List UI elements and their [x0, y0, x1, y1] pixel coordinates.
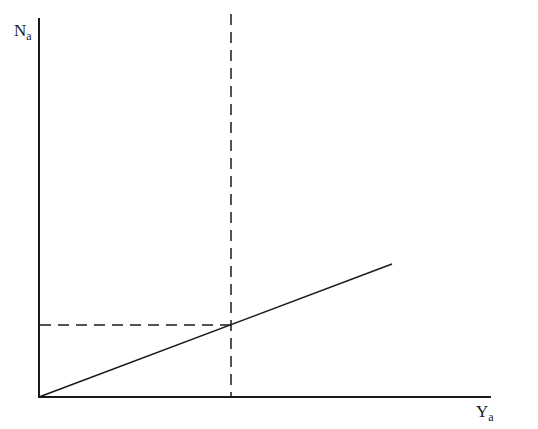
x-axis-label: Ya: [476, 403, 494, 423]
y-axis-label-main: N: [14, 21, 26, 40]
sloped-line: [39, 264, 392, 397]
x-axis-label-main: Y: [476, 402, 488, 421]
y-axis-label: Na: [14, 22, 32, 42]
x-axis-label-subscript: a: [488, 410, 493, 424]
diagram-canvas: [0, 0, 538, 429]
y-axis-label-subscript: a: [26, 29, 31, 43]
